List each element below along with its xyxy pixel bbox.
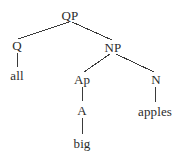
tree-node-q: Q [12, 39, 22, 52]
tree-node-ap: Ap [74, 73, 90, 86]
tree-node-qp: QP [62, 9, 79, 22]
tree-node-n: N [151, 73, 161, 86]
tree-node-apples: apples [138, 105, 172, 118]
tree-node-all: all [10, 69, 23, 82]
tree-node-a: A [77, 104, 87, 117]
tree-edge-np-n [116, 54, 154, 72]
tree-edge-qp-q [18, 22, 69, 39]
syntax-tree-figure: QPQallNPApAbigNapples [0, 0, 179, 157]
tree-edge-np-ap [84, 54, 110, 72]
tree-node-big: big [74, 137, 91, 150]
tree-edge-qp-np [72, 22, 112, 40]
tree-node-np: NP [105, 41, 122, 54]
